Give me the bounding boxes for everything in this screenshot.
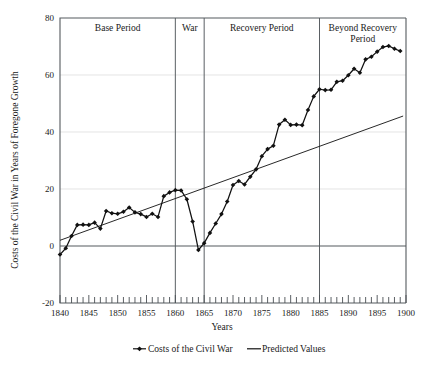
y-tick-label: -20	[42, 298, 54, 308]
x-tick-label: 1875	[253, 308, 272, 318]
x-axis-tick-labels: 1840184518501855186018651870187518801885…	[51, 308, 416, 318]
x-tick-label: 1855	[138, 308, 157, 318]
chart-container: -20020406080 184018451850185518601865187…	[0, 0, 422, 370]
x-tick-label: 1845	[80, 308, 99, 318]
period-band-label: Period	[350, 34, 375, 44]
y-tick-label: 60	[45, 70, 55, 80]
y-axis-tick-labels: -20020406080	[42, 13, 55, 308]
period-band-label: Beyond Recovery	[329, 23, 398, 33]
x-tick-label: 1890	[339, 308, 358, 318]
y-axis-title: Costs of the Civil War in Years of Foreg…	[10, 71, 20, 269]
x-tick-label: 1865	[195, 308, 214, 318]
x-tick-label: 1895	[368, 308, 387, 318]
plot-axes	[60, 18, 406, 303]
legend: Costs of the Civil WarPredicted Values	[133, 344, 326, 354]
civil-war-costs-chart: -20020406080 184018451850185518601865187…	[0, 0, 422, 370]
legend-label-costs: Costs of the Civil War	[148, 344, 233, 354]
x-axis-title: Years	[211, 322, 233, 332]
period-band-label: War	[182, 23, 198, 33]
x-tick-label: 1870	[224, 308, 243, 318]
costs-series-line	[60, 46, 400, 255]
period-band-label: Recovery Period	[230, 23, 294, 33]
x-tick-label: 1900	[397, 308, 416, 318]
grid-lines	[60, 75, 406, 189]
x-tick-label: 1860	[166, 308, 185, 318]
costs-series-markers	[58, 44, 403, 257]
x-tick-label: 1850	[109, 308, 128, 318]
period-band-labels: Base PeriodWarRecovery PeriodBeyond Reco…	[95, 23, 397, 44]
y-tick-label: 80	[45, 13, 55, 23]
legend-label-predicted: Predicted Values	[262, 344, 326, 354]
period-divider-lines	[175, 18, 319, 303]
y-tick-label: 0	[50, 241, 55, 251]
predicted-values-trendline	[60, 116, 403, 240]
x-axis-tick-marks	[60, 295, 406, 303]
x-tick-label: 1880	[282, 308, 301, 318]
x-tick-label: 1885	[311, 308, 330, 318]
y-tick-label: 40	[45, 127, 55, 137]
x-tick-label: 1840	[51, 308, 70, 318]
period-band-label: Base Period	[95, 23, 141, 33]
y-tick-label: 20	[45, 184, 55, 194]
